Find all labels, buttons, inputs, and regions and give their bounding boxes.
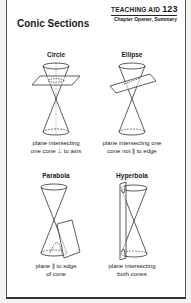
section-ellipse: Ellipse plane intersecting one cone not … (93, 51, 171, 155)
section-label: Hyperbola (93, 172, 171, 179)
section-caption: plane intersecting one cone ⊥ to axis (17, 139, 95, 155)
section-caption: plane ∥ to edge of cone (17, 262, 95, 278)
circle-conic-diagram-icon (26, 61, 86, 137)
teaching-aid-header: TEACHING AID 123 (111, 4, 177, 16)
section-label: Parabola (17, 172, 95, 179)
hyperbola-conic-diagram-icon (102, 182, 162, 260)
teaching-aid-number: 123 (162, 4, 178, 14)
section-caption: plane intersecting one cone not ∥ to edg… (93, 139, 171, 155)
section-caption: plane intersecting both cones (93, 262, 171, 278)
section-circle: Circle plane intersecting one cone ⊥ to … (17, 51, 95, 155)
teaching-aid-page: TEACHING AID 123 Chapter Opener, Summary… (6, 0, 186, 299)
section-parabola: Parabola plane ∥ to edge of cone (17, 172, 95, 278)
section-hyperbola: Hyperbola plane intersecting both cones (93, 172, 171, 278)
section-label: Ellipse (93, 51, 171, 58)
page-title: Conic Sections (17, 18, 89, 29)
ellipse-conic-diagram-icon (102, 61, 162, 137)
section-label: Circle (17, 51, 95, 58)
teaching-aid-label: TEACHING AID (111, 6, 160, 13)
chapter-subtitle: Chapter Opener, Summary (114, 16, 177, 22)
parabola-conic-diagram-icon (26, 182, 86, 260)
